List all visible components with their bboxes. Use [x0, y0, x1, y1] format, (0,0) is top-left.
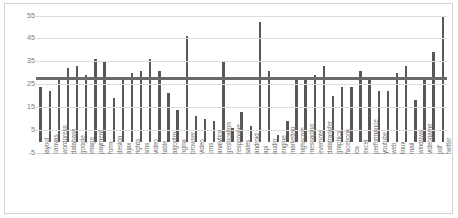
x-axis-tick-label: payment — [98, 130, 104, 154]
bar — [368, 77, 370, 141]
bar-slot — [246, 11, 255, 153]
y-axis-tick-label: -5 — [29, 149, 35, 157]
y-axis-tick-label: 15 — [27, 103, 35, 111]
x-label-slot: design — [109, 154, 118, 210]
x-axis-tick-label: api — [263, 146, 269, 154]
x-label-slot: google — [73, 154, 82, 210]
x-axis-tick-label: canvas — [52, 134, 58, 154]
y-axis-tick-label: 25 — [27, 80, 35, 88]
x-axis-tick-label: excel — [363, 140, 369, 154]
x-axis-tick-label: sms — [144, 143, 150, 154]
x-label-slot: browser — [182, 154, 191, 210]
gridline — [36, 107, 447, 108]
bar-slot — [146, 11, 155, 153]
x-label-slot: excel — [356, 154, 365, 210]
x-axis-tick-label: ajax — [125, 143, 131, 154]
x-axis-tick-label: sales — [244, 140, 250, 154]
x-label-slot: messaging — [301, 154, 310, 210]
x-axis-tick-label: marketing — [290, 127, 296, 154]
x-label-slot: mail — [402, 154, 411, 210]
x-axis-tick-label: image — [89, 137, 95, 154]
y-axis-labels: 55453525155-5 — [9, 0, 35, 160]
gridline — [36, 61, 447, 62]
x-label-slot: cms — [201, 154, 210, 210]
x-label-slot: sms — [137, 154, 146, 210]
bar-slot — [127, 11, 136, 153]
x-label-slot: highscore — [292, 154, 301, 210]
x-label-slot: ajax — [118, 154, 127, 210]
x-axis-tick-label: mail — [409, 143, 415, 154]
x-axis-tick-label: browser — [189, 132, 195, 154]
bar-slot — [255, 11, 264, 153]
bar — [122, 80, 124, 142]
y-axis-tick-label: 35 — [27, 57, 35, 65]
bar-slot — [201, 11, 210, 153]
x-axis-tick-label: analytics — [217, 130, 223, 154]
x-label-slot: table — [155, 154, 164, 210]
x-label-slot: api — [255, 154, 264, 210]
x-label-slot: geolocation — [219, 154, 228, 210]
gridline — [36, 16, 447, 17]
bar — [49, 91, 51, 141]
x-label-slot: datatransfer — [319, 154, 328, 210]
x-label-slot: videogame — [420, 154, 429, 210]
x-label-slot: video — [191, 154, 200, 210]
x-label-slot: form — [100, 154, 109, 210]
bar-chart: 55453525155-5 layoutcanvaswordpressdatab… — [0, 0, 458, 218]
y-axis-tick-label: 55 — [27, 12, 35, 20]
x-axis-tick-label: video — [199, 139, 205, 154]
x-axis-tick-label: datatransfer — [327, 121, 333, 154]
x-label-slot: marketing — [283, 154, 292, 210]
x-label-slot: database — [63, 154, 72, 210]
bar — [259, 22, 261, 141]
x-label-slot: analytics — [210, 154, 219, 210]
x-label-slot: youtube — [374, 154, 383, 210]
x-axis-tick-label: highscore — [299, 127, 305, 154]
x-axis-labels: layoutcanvaswordpressdatabasegoogleimage… — [36, 154, 447, 210]
x-axis-tick-label: audio — [272, 139, 278, 154]
x-axis-tick-label: form — [107, 142, 113, 154]
x-label-slot: pdf — [429, 154, 438, 210]
x-label-slot: video — [146, 154, 155, 210]
x-axis-tick-label: layout — [43, 138, 49, 154]
x-axis-tick-label: rights — [135, 139, 141, 154]
chart-plot-wrapper: 55453525155-5 layoutcanvaswordpressdatab… — [0, 0, 458, 218]
x-axis-tick-label: database — [71, 129, 77, 155]
x-axis-tick-label: algoritm — [171, 132, 177, 154]
x-axis-tick-label: twitter — [445, 138, 451, 154]
x-label-slot: twitter — [438, 154, 447, 210]
bar — [186, 36, 188, 141]
x-axis-tick-label: performance — [372, 119, 378, 154]
x-axis-tick-label: ios — [354, 146, 360, 154]
x-label-slot: linux — [392, 154, 401, 210]
x-axis-tick-label: geolocation — [226, 122, 232, 154]
x-label-slot: android — [246, 154, 255, 210]
x-axis-tick-label: android — [253, 133, 259, 154]
reference-line — [36, 77, 447, 79]
x-axis-tick-label: wordpress — [61, 125, 67, 154]
bar-slot — [137, 11, 146, 153]
bar-slot — [265, 11, 274, 153]
bar-slot — [118, 11, 127, 153]
gridline — [36, 84, 447, 85]
x-axis-tick-label: responsive — [235, 124, 241, 154]
x-label-slot: nginx — [173, 154, 182, 210]
x-label-slot: canvas — [45, 154, 54, 210]
x-axis-tick-label: nginx — [180, 139, 186, 154]
bar-slot — [82, 11, 91, 153]
bar-slot — [155, 11, 164, 153]
x-label-slot: image — [82, 154, 91, 210]
x-axis-tick-label: design — [116, 136, 122, 154]
bar — [167, 93, 169, 141]
x-label-slot: web — [383, 154, 392, 210]
x-label-slot: engine — [274, 154, 283, 210]
x-axis-tick-label: youtube — [381, 132, 387, 154]
bar-slot — [392, 11, 401, 153]
x-axis-tick-label: video — [153, 139, 159, 154]
x-axis-tick-label: web — [391, 143, 397, 154]
x-axis-tick-label: messaging — [308, 124, 314, 154]
y-axis-tick-label: 45 — [27, 34, 35, 42]
bar-slot — [45, 11, 54, 153]
x-axis-tick-label: videogame — [427, 124, 433, 154]
x-axis-tick-label: graphics — [336, 131, 342, 154]
